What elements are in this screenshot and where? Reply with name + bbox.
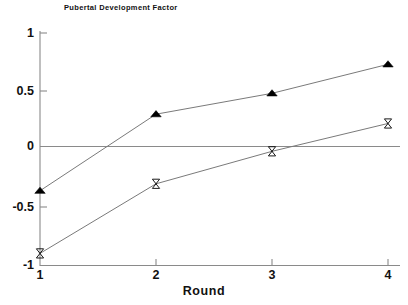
y-axis-ticks [40,33,47,207]
series-line-filled-triangle [40,64,388,190]
data-point-marker [383,61,393,67]
series-markers-filled-triangle [35,61,393,194]
series-line-open-hourglass [40,123,388,253]
data-point-marker [152,179,159,188]
series-markers-open-hourglass [36,119,391,258]
axis-lines [40,31,400,266]
data-point-marker [384,119,391,128]
x-axis-ticks [156,259,388,266]
chart-container: Pubertal Development Factor 1 0.5 0 -0.5… [0,0,408,305]
data-point-marker [268,147,275,156]
plot-area [0,0,408,305]
